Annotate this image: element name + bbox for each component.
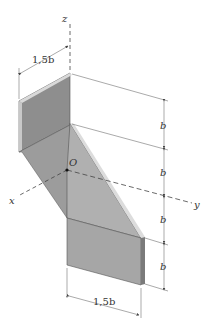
top-plate-side bbox=[19, 101, 22, 152]
top-width-label: 1,5b bbox=[32, 54, 54, 65]
dim-b-label-1: b bbox=[160, 120, 166, 131]
dim-b-label-3: b bbox=[160, 214, 166, 225]
z-axis-label: z bbox=[61, 13, 68, 24]
y-axis-label: y bbox=[193, 199, 200, 210]
bent-plate-diagram: O z x y 1,5b 1,5b b b b b bbox=[0, 0, 209, 330]
dim-b-label-4: b bbox=[160, 261, 166, 272]
dim-b-label-2: b bbox=[160, 167, 166, 178]
dim-ext-line bbox=[145, 238, 168, 245]
origin-point bbox=[65, 168, 68, 171]
x-axis-label: x bbox=[9, 195, 15, 206]
origin-label: O bbox=[69, 157, 77, 168]
dim-ext-line bbox=[72, 74, 168, 101]
bottom-plate-side bbox=[141, 237, 145, 285]
bottom-width-label: 1,5b bbox=[93, 296, 115, 307]
dim-ext-line bbox=[145, 284, 168, 291]
